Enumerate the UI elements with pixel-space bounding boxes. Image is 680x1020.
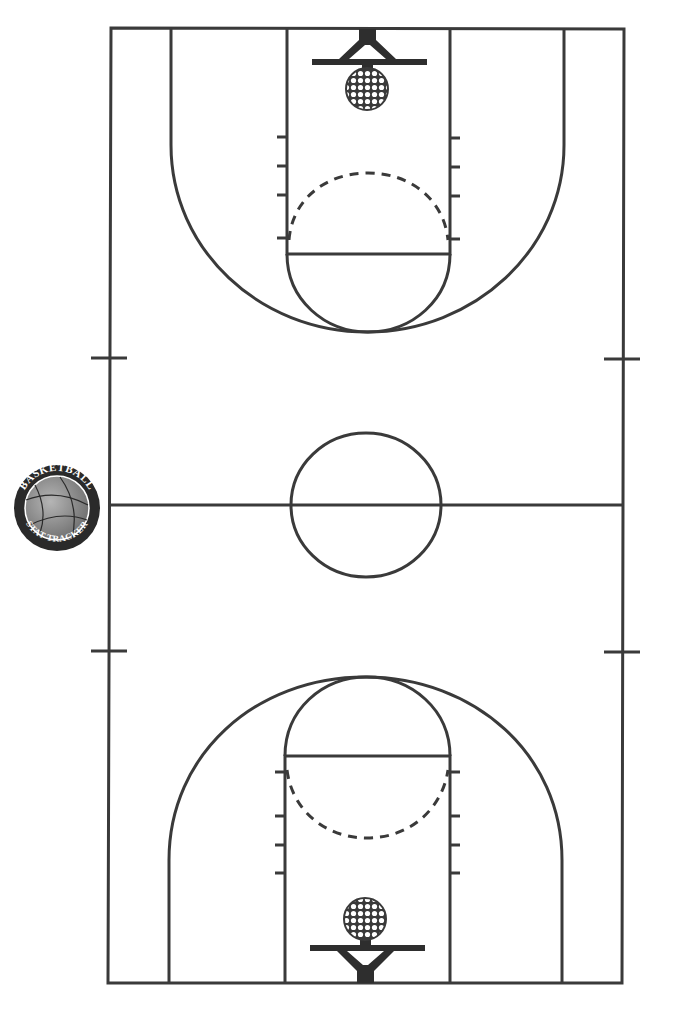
basket-bottom — [310, 898, 425, 983]
backboard-bottom — [310, 945, 425, 951]
net-icon-top — [346, 68, 388, 110]
free-throw-arc-bottom-solid — [285, 677, 450, 756]
basketball-stat-tracker-logo: BASKETBALL STAT TRACKER — [14, 461, 100, 551]
backboard-bracket-bottom — [337, 951, 394, 971]
basket-top — [312, 29, 427, 110]
backboard-support-bottom — [357, 970, 374, 983]
backboard-support-top — [359, 29, 376, 41]
free-throw-arc-bottom-dashed — [287, 770, 448, 838]
backboard-top — [312, 59, 427, 65]
net-icon-bottom — [344, 898, 386, 940]
free-throw-arc-top-dashed — [289, 173, 448, 240]
free-throw-arc-top-solid — [287, 254, 450, 332]
backboard-bracket-top — [339, 40, 396, 59]
basketball-court-diagram: BASKETBALL STAT TRACKER — [0, 0, 680, 1020]
